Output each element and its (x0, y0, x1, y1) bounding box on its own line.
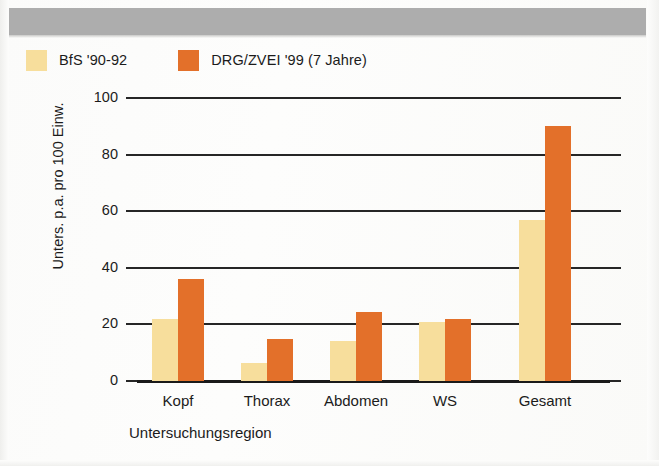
x-tick-label-gesamt: Gesamt (485, 392, 605, 409)
gridline-100 (137, 97, 610, 99)
y-tick-40 (126, 267, 137, 269)
bar-ws-series2 (445, 319, 471, 381)
bar-abdomen-series1 (330, 341, 356, 381)
y-tick-60 (126, 210, 137, 212)
y-tick-right-20 (610, 323, 621, 325)
y-tick-label-80: 80 (74, 147, 118, 162)
plot-area: Unters. p.a. pro 100 Einw. 020406080100 … (0, 0, 659, 466)
bar-gesamt-series2 (545, 126, 571, 381)
y-tick-label-wrap-100: 100 (68, 98, 118, 99)
y-tick-label-100: 100 (74, 90, 118, 105)
y-tick-100 (126, 97, 137, 99)
x-axis-title: Untersuchungsregion (129, 424, 272, 441)
bar-abdomen-series2 (356, 312, 382, 381)
y-tick-label-wrap-60: 60 (68, 211, 118, 212)
gridline-80 (137, 154, 610, 156)
chart-page: BfS '90-92 DRG/ZVEI '99 (7 Jahre) Unters… (0, 0, 659, 466)
y-tick-label-wrap-40: 40 (68, 268, 118, 269)
y-tick-right-40 (610, 267, 621, 269)
y-tick-label-20: 20 (74, 316, 118, 331)
y-tick-label-0: 0 (74, 373, 118, 388)
bar-gesamt-series1 (519, 220, 545, 381)
y-tick-20 (126, 323, 137, 325)
bar-kopf-series1 (152, 319, 178, 381)
bar-ws-series1 (419, 322, 445, 381)
y-tick-label-40: 40 (74, 260, 118, 275)
y-tick-label-60: 60 (74, 203, 118, 218)
y-tick-right-60 (610, 210, 621, 212)
bar-kopf-series2 (178, 279, 204, 381)
y-tick-right-0 (610, 380, 621, 382)
bar-thorax-series2 (267, 339, 293, 381)
y-tick-0 (126, 380, 137, 382)
gridline-60 (137, 210, 610, 212)
y-tick-label-wrap-0: 0 (68, 381, 118, 382)
y-tick-right-100 (610, 97, 621, 99)
y-tick-80 (126, 154, 137, 156)
y-tick-label-wrap-80: 80 (68, 155, 118, 156)
y-axis-title: Unters. p.a. pro 100 Einw. (50, 71, 66, 301)
bar-thorax-series1 (241, 363, 267, 381)
y-tick-label-wrap-20: 20 (68, 324, 118, 325)
y-tick-right-80 (610, 154, 621, 156)
